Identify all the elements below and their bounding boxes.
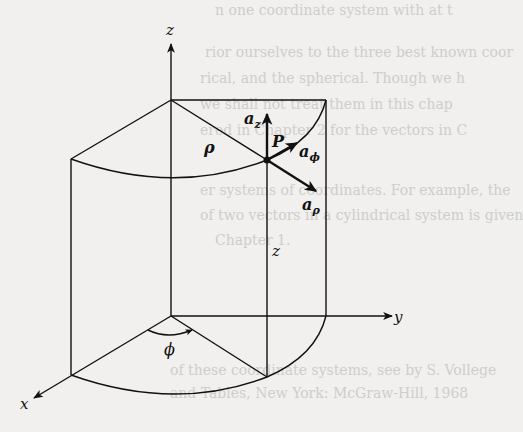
x-axis-label: x (20, 395, 29, 413)
a-rho-vector (267, 160, 316, 191)
x-axis (34, 316, 171, 398)
top-edge-x (71, 100, 171, 159)
a-rho-label: aρ (302, 195, 320, 217)
phi-label: ϕ (164, 340, 175, 359)
y-axis-label: y (393, 308, 403, 326)
z-axis-label: z (165, 21, 174, 39)
bottom-radius-phi (171, 316, 267, 377)
point-p-dot (264, 157, 271, 164)
point-p-label: P (271, 132, 285, 151)
rho-label: ρ (203, 138, 215, 157)
a-phi-label: aϕ (299, 142, 320, 164)
bottom-arc (71, 316, 326, 394)
phi-angle-arc (148, 330, 192, 335)
a-z-label: az (244, 109, 261, 131)
top-arc (71, 100, 326, 178)
z-height-label: z (271, 242, 280, 260)
